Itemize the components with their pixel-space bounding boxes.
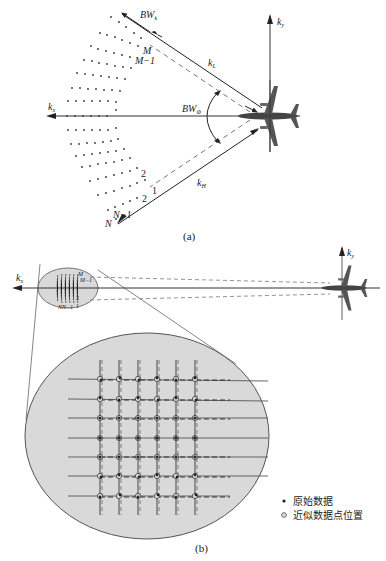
small-m-minus-1-label: M−1 <box>79 277 92 283</box>
bwphi-arc <box>207 92 218 142</box>
polar-sample-points <box>66 16 146 220</box>
label-2-upper: 2 <box>141 168 146 179</box>
legend-approx-points: 近似数据点位置 <box>293 509 363 521</box>
magnified-region-ellipse <box>25 333 269 539</box>
legend-hollow-circle-icon <box>282 513 287 518</box>
polar-grid-interpolation-figure: ky kx BWk kL M M−1 kH BWΦ <box>0 0 386 561</box>
small-n-minus-1-label: N−1 <box>61 304 73 310</box>
upper-beam-dashed <box>90 277 330 283</box>
ky-label: ky <box>277 16 284 28</box>
kx-arrow-icon <box>46 113 56 119</box>
small-1-label: 1 <box>76 303 79 309</box>
legend: 原始数据 近似数据点位置 <box>282 495 363 521</box>
panel-b: M M−1 N N−1 2 1 kx ky <box>12 246 380 555</box>
label-2-lower: 2 <box>142 193 147 204</box>
caption-a: (a) <box>183 230 196 243</box>
legend-original-data: 原始数据 <box>293 495 333 507</box>
small-2-label: 2 <box>76 295 79 301</box>
aircraft-icon-b <box>322 266 368 311</box>
legend-filled-dot-icon <box>282 499 285 502</box>
n-minus-1-label: N−1 <box>112 209 131 220</box>
upper-dashed-line <box>150 45 250 112</box>
bwk-label: BWk <box>140 9 157 21</box>
kx-label: kx <box>48 101 55 113</box>
n-label: N <box>104 218 113 229</box>
kx-arrow-icon-b <box>12 285 22 291</box>
panel-a: ky kx BWk kL M M−1 kH BWΦ <box>46 9 300 243</box>
m-minus-1-label: M−1 <box>134 55 155 66</box>
ky-label-b: ky <box>347 247 354 259</box>
label-1: 1 <box>152 185 157 196</box>
ky-arrow-icon <box>267 14 273 24</box>
kL-arrow-icon <box>245 106 257 112</box>
kH-label: kH <box>197 177 206 189</box>
kx-label-b: kx <box>16 272 23 284</box>
kH-line <box>118 130 258 224</box>
lower-beam-dashed <box>90 294 330 300</box>
kL-label: kL <box>208 57 216 69</box>
ky-arrow-icon-b <box>339 246 345 256</box>
caption-b: (b) <box>195 542 208 555</box>
bwphi-label: BWΦ <box>182 103 201 115</box>
